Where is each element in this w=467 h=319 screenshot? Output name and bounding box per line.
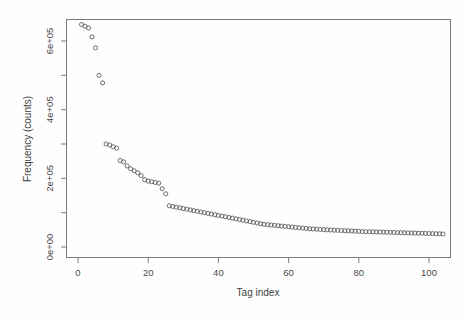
x-axis-ticks — [78, 258, 429, 264]
data-point — [122, 160, 126, 164]
data-point-markers — [79, 22, 445, 236]
y-axis-ticks — [61, 41, 67, 247]
x-axis-tick-labels: 020406080100 — [75, 267, 437, 278]
data-point — [139, 174, 143, 178]
scatter-plot-figure: 0e+002e+054e+056e+05 020406080100 Freque… — [0, 0, 467, 319]
plot-canvas: 0e+002e+054e+056e+05 020406080100 Freque… — [0, 0, 467, 319]
x-tick-label: 80 — [354, 267, 365, 278]
y-axis-title: Frequency (counts) — [22, 96, 33, 182]
x-tick-label: 0 — [75, 267, 80, 278]
data-point — [90, 35, 94, 39]
data-point — [115, 146, 119, 150]
x-tick-label: 60 — [283, 267, 294, 278]
x-tick-label: 20 — [143, 267, 154, 278]
y-tick-label: 0e+00 — [44, 234, 55, 261]
y-tick-label: 2e+05 — [44, 165, 55, 192]
data-point — [94, 46, 98, 50]
x-tick-label: 40 — [213, 267, 224, 278]
data-point — [86, 26, 90, 30]
y-tick-label: 4e+05 — [44, 96, 55, 123]
x-tick-label: 100 — [421, 267, 437, 278]
data-point — [97, 73, 101, 77]
y-axis-tick-labels: 0e+002e+054e+056e+05 — [44, 28, 55, 261]
data-point — [164, 192, 168, 196]
y-tick-label: 6e+05 — [44, 28, 55, 55]
data-point — [160, 187, 164, 191]
x-axis-title: Tag index — [237, 287, 280, 298]
data-point — [101, 81, 105, 85]
